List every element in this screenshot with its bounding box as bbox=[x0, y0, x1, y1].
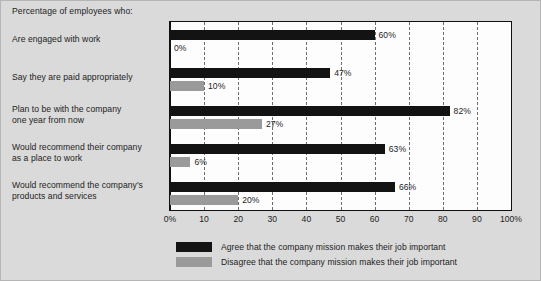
category-label-line: products and services bbox=[12, 191, 167, 202]
bar-disagree bbox=[170, 157, 190, 167]
bar-value-label: 82% bbox=[454, 106, 471, 116]
legend-item: Agree that the company mission makes the… bbox=[176, 240, 457, 253]
bar-agree bbox=[170, 68, 330, 78]
x-tick-label-0: 0% bbox=[164, 214, 176, 224]
x-tick-label-30: 30 bbox=[268, 214, 278, 224]
bar-agree bbox=[170, 30, 375, 40]
bar-value-label: 60% bbox=[379, 30, 396, 40]
bar-group: 82%27% bbox=[170, 102, 511, 136]
bar-agree bbox=[170, 144, 385, 154]
bar-group: 47%10% bbox=[170, 64, 511, 98]
bar-value-label: 6% bbox=[194, 157, 206, 167]
bar-disagree bbox=[170, 81, 204, 91]
category-label-line: Say they are paid appropriately bbox=[12, 72, 167, 83]
category-label: Plan to be with the companyone year from… bbox=[12, 104, 167, 125]
bar-value-label: 27% bbox=[266, 119, 283, 129]
x-tick-label-50: 50 bbox=[336, 214, 346, 224]
legend-label: Disagree that the company mission makes … bbox=[221, 257, 457, 267]
category-axis-labels: Are engaged with workSay they are paid a… bbox=[1, 21, 169, 211]
legend-label: Agree that the company mission makes the… bbox=[221, 242, 445, 252]
x-tick-label-100: 100% bbox=[500, 214, 522, 224]
bar-group: 63%6% bbox=[170, 140, 511, 174]
bar-value-label: 63% bbox=[389, 144, 406, 154]
category-label-line: one year from now bbox=[12, 115, 167, 126]
gridline-100 bbox=[511, 22, 512, 210]
category-label-line: as a place to work bbox=[12, 153, 167, 164]
legend-swatch bbox=[176, 257, 212, 267]
bar-value-label: 66% bbox=[399, 182, 416, 192]
category-label-line: Would recommend their company bbox=[12, 142, 167, 153]
x-tick-label-80: 80 bbox=[438, 214, 448, 224]
chart-legend: Agree that the company mission makes the… bbox=[176, 240, 457, 270]
x-tick-label-40: 40 bbox=[302, 214, 312, 224]
category-label-line: Plan to be with the company bbox=[12, 104, 167, 115]
bar-group: 66%20% bbox=[170, 178, 511, 212]
x-tick-label-90: 90 bbox=[472, 214, 482, 224]
category-label-line: Are engaged with work bbox=[12, 34, 167, 45]
bar-disagree bbox=[170, 195, 238, 205]
bar-value-label: 47% bbox=[334, 68, 351, 78]
bar-value-label: 0% bbox=[174, 43, 186, 53]
x-tick-label-20: 20 bbox=[233, 214, 243, 224]
category-label-line: Would recommend the company's bbox=[12, 180, 167, 191]
plot-inner: 60%0%47%10%82%27%63%6%66%20% bbox=[170, 22, 511, 210]
bar-group: 60%0% bbox=[170, 26, 511, 60]
bar-value-label: 20% bbox=[242, 195, 259, 205]
category-label: Would recommend the company'sproducts an… bbox=[12, 180, 167, 201]
x-tick-label-10: 10 bbox=[199, 214, 209, 224]
chart-title: Percentage of employees who: bbox=[12, 6, 133, 16]
bar-disagree bbox=[170, 119, 262, 129]
bar-agree bbox=[170, 106, 450, 116]
category-label: Would recommend their companyas a place … bbox=[12, 142, 167, 163]
x-tick-label-60: 60 bbox=[370, 214, 380, 224]
legend-item: Disagree that the company mission makes … bbox=[176, 255, 457, 268]
x-tick-label-70: 70 bbox=[404, 214, 414, 224]
bar-value-label: 10% bbox=[208, 81, 225, 91]
category-label: Are engaged with work bbox=[12, 34, 167, 45]
chart-figure: Percentage of employees who: Are engaged… bbox=[0, 0, 541, 281]
x-axis: 0%102030405060708090100% bbox=[169, 212, 512, 226]
legend-swatch bbox=[176, 242, 212, 252]
bar-agree bbox=[170, 182, 395, 192]
category-label: Say they are paid appropriately bbox=[12, 72, 167, 83]
plot-area: 60%0%47%10%82%27%63%6%66%20% bbox=[169, 21, 512, 211]
